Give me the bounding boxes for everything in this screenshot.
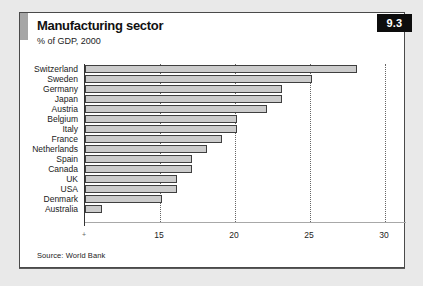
category-label: UK (20, 174, 78, 184)
category-label: Belgium (20, 114, 78, 124)
bar-row (85, 104, 406, 114)
category-label: USA (20, 184, 78, 194)
chart-title: Manufacturing sector (37, 18, 163, 33)
bar-uk (85, 175, 177, 183)
bar-row (85, 64, 406, 74)
category-label: Japan (20, 94, 78, 104)
category-label: Italy (20, 124, 78, 134)
x-tick-label-20: 20 (229, 230, 238, 240)
x-tick-label-25: 25 (304, 230, 313, 240)
category-label: Australia (20, 204, 78, 214)
source-note: Source: World Bank (37, 251, 105, 260)
category-label: Denmark (20, 194, 78, 204)
bar-row (85, 154, 406, 164)
bar-germany (85, 85, 282, 93)
bar-sweden (85, 75, 312, 83)
x-axis-ticks: + 15202530 (84, 230, 405, 242)
bar-row (85, 124, 406, 134)
category-label: France (20, 134, 78, 144)
bar-belgium (85, 115, 237, 123)
bar-italy (85, 125, 237, 133)
bar-row (85, 164, 406, 174)
bar-austria (85, 105, 267, 113)
chart-subtitle: % of GDP, 2000 (37, 36, 101, 46)
bar-row (85, 84, 406, 94)
bar-netherlands (85, 145, 207, 153)
bar-france (85, 135, 222, 143)
category-label: Switzerland (20, 64, 78, 74)
category-labels: SwitzerlandSwedenGermanyJapanAustriaBelg… (20, 64, 78, 214)
category-label: Spain (20, 154, 78, 164)
bar-row (85, 174, 406, 184)
origin-axis-tick (84, 222, 85, 226)
category-label: Austria (20, 104, 78, 114)
bar-denmark (85, 195, 162, 203)
bar-japan (85, 95, 282, 103)
plot-area (84, 64, 406, 223)
category-label: Germany (20, 84, 78, 94)
category-label: Sweden (20, 74, 78, 84)
bar-row (85, 114, 406, 124)
bar-row (85, 194, 406, 204)
x-tick-label-30: 30 (379, 230, 388, 240)
x-tick-label-15: 15 (154, 230, 163, 240)
category-label: Canada (20, 164, 78, 174)
bar-usa (85, 185, 177, 193)
page-background: 9.3 Manufacturing sector % of GDP, 2000 … (0, 0, 423, 286)
figure-number-badge: 9.3 (377, 14, 412, 32)
axis-origin-marker: + (82, 231, 86, 238)
bar-row (85, 204, 406, 214)
bar-switzerland (85, 65, 357, 73)
bar-canada (85, 165, 192, 173)
bar-row (85, 94, 406, 104)
bar-row (85, 74, 406, 84)
bar-australia (85, 205, 102, 213)
bar-row (85, 184, 406, 194)
bar-spain (85, 155, 192, 163)
bar-row (85, 144, 406, 154)
figure-panel: 9.3 Manufacturing sector % of GDP, 2000 … (19, 12, 405, 268)
category-label: Netherlands (20, 144, 78, 154)
title-accent-bar (20, 13, 28, 40)
bar-row (85, 134, 406, 144)
